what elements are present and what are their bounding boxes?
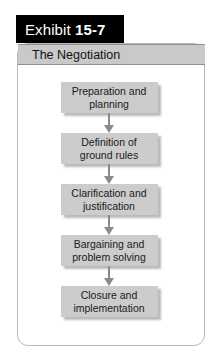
exhibit-subtitle: The Negotiation (32, 48, 120, 62)
flow-step: Preparation and planning (61, 82, 158, 113)
arrow-head (104, 125, 114, 133)
flow-step: Bargaining and problem solving (61, 235, 158, 266)
arrow-head (104, 176, 114, 184)
flow-step-label: Definition of ground rules (80, 136, 138, 161)
exhibit-title-tab: Exhibit 15-7 (16, 15, 124, 43)
flow-arrow-icon (103, 164, 115, 184)
flow-step-label: Bargaining and problem solving (72, 238, 146, 263)
flow-step-label: Clarification and justification (71, 187, 146, 212)
flow-arrow-icon (103, 215, 115, 235)
flow-step: Closure and implementation (61, 286, 158, 317)
arrow-head (104, 227, 114, 235)
flow-step: Definition of ground rules (61, 133, 158, 164)
flow-arrow-icon (103, 266, 115, 286)
exhibit-subtitle-band: The Negotiation (18, 44, 205, 65)
exhibit-title-text: Exhibit 15-7 (25, 21, 105, 38)
flow-arrow-icon (103, 113, 115, 133)
flow-step-label: Preparation and planning (72, 85, 147, 110)
exhibit-title-word: Exhibit (25, 21, 75, 38)
arrow-head (104, 278, 114, 286)
flow-step: Clarification and justification (61, 184, 158, 215)
exhibit-figure: Exhibit 15-7 The Negotiation Preparation… (0, 0, 218, 359)
exhibit-number: 15-7 (75, 21, 105, 38)
negotiation-process-flow: Preparation and planning Definition of g… (0, 82, 218, 317)
flow-step-label: Closure and implementation (73, 289, 144, 314)
